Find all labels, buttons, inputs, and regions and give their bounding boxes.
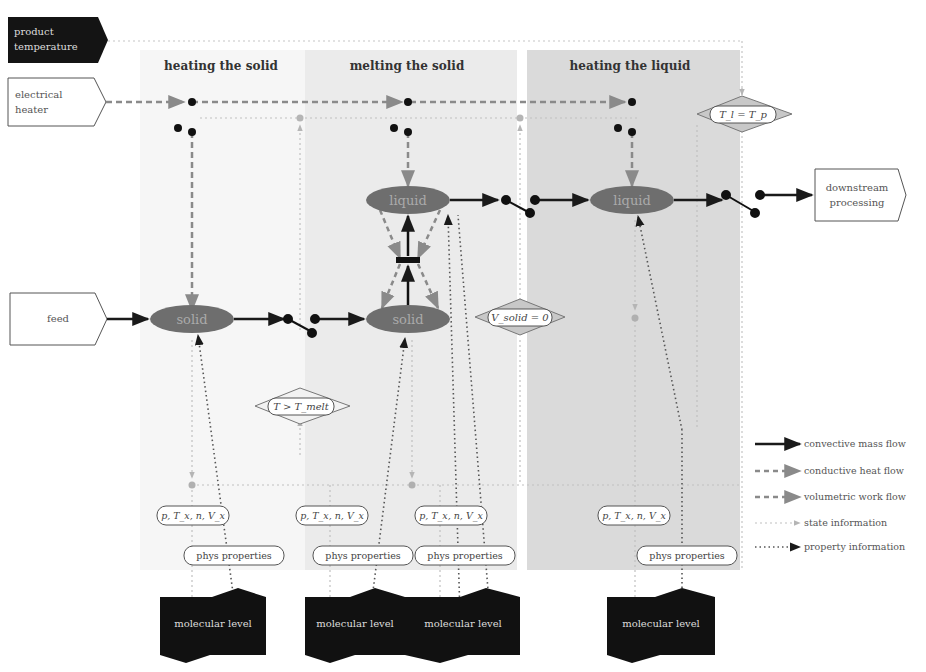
liquid-node-heating: liquid: [590, 186, 674, 214]
svg-text:phys properties: phys properties: [649, 550, 725, 561]
svg-text:phys properties: phys properties: [427, 550, 503, 561]
legend-property-information: property information: [804, 541, 905, 552]
legend: convective mass flow conductive heat flo…: [755, 438, 906, 552]
electrical-heater-box: electrical heater: [8, 78, 106, 126]
svg-text:V_solid = 0: V_solid = 0: [491, 312, 549, 324]
svg-text:T_l = T_p: T_l = T_p: [719, 109, 767, 121]
svg-text:electrical: electrical: [15, 89, 62, 100]
solid-node-melting: solid: [366, 305, 450, 333]
svg-text:product: product: [14, 26, 54, 37]
downstream-processing-box: downstream processing: [815, 169, 906, 221]
svg-text:molecular level: molecular level: [424, 618, 502, 629]
svg-text:molecular level: molecular level: [622, 618, 700, 629]
phase-panel-heating-liquid: [527, 50, 740, 570]
phase-title-heating-solid: heating the solid: [164, 59, 278, 73]
property-pill-3: phys properties: [415, 546, 515, 565]
property-pill-2: phys properties: [313, 546, 413, 565]
product-temperature-box: product temperature: [8, 17, 108, 63]
phase-title-melting-solid: melting the solid: [350, 59, 465, 73]
svg-text:solid: solid: [176, 312, 207, 327]
svg-text:p, T_x, n, V_x: p, T_x, n, V_x: [300, 510, 364, 522]
liquid-node-melting: liquid: [366, 186, 450, 214]
legend-convective-mass-flow: convective mass flow: [804, 438, 906, 449]
molecular-level-box-1: molecular level: [160, 588, 266, 663]
solid-node-heating: solid: [150, 305, 234, 333]
svg-text:downstream: downstream: [826, 182, 889, 193]
legend-volumetric-work-flow: volumetric work flow: [803, 491, 906, 502]
phase-title-heating-liquid: heating the liquid: [570, 59, 691, 73]
state-pill-4: p, T_x, n, V_x: [598, 506, 670, 525]
svg-text:T > T_melt: T > T_melt: [273, 401, 330, 413]
state-pill-1: p, T_x, n, V_x: [157, 506, 229, 525]
svg-text:temperature: temperature: [14, 41, 78, 52]
svg-text:p, T_x, n, V_x: p, T_x, n, V_x: [161, 510, 225, 522]
svg-text:p, T_x, n, V_x: p, T_x, n, V_x: [602, 510, 666, 522]
svg-text:phys properties: phys properties: [196, 550, 272, 561]
svg-text:feed: feed: [47, 313, 70, 324]
svg-text:liquid: liquid: [389, 193, 427, 208]
svg-text:molecular level: molecular level: [174, 618, 252, 629]
svg-text:p, T_x, n, V_x: p, T_x, n, V_x: [419, 510, 483, 522]
svg-text:phys properties: phys properties: [325, 550, 401, 561]
svg-text:processing: processing: [829, 197, 885, 208]
property-pill-1: phys properties: [184, 546, 284, 565]
svg-text:solid: solid: [392, 312, 423, 327]
svg-text:molecular level: molecular level: [316, 618, 394, 629]
legend-state-information: state information: [804, 517, 887, 528]
molecular-level-box-2: molecular level: [305, 588, 405, 663]
legend-conductive-heat-flow: conductive heat flow: [804, 465, 904, 476]
property-pill-4: phys properties: [637, 546, 737, 565]
state-pill-3: p, T_x, n, V_x: [415, 506, 487, 525]
svg-text:heater: heater: [15, 104, 48, 115]
svg-text:liquid: liquid: [613, 193, 651, 208]
state-pill-2: p, T_x, n, V_x: [296, 506, 368, 525]
feed-box: feed: [10, 293, 107, 345]
molecular-level-box-3: molecular level: [405, 588, 520, 663]
process-diagram: heating the solid melting the solid heat…: [0, 0, 926, 672]
molecular-level-box-4: molecular level: [607, 588, 715, 663]
